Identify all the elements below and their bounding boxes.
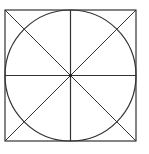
- geometry-diagram: [0, 0, 149, 154]
- center-point: [69, 74, 73, 78]
